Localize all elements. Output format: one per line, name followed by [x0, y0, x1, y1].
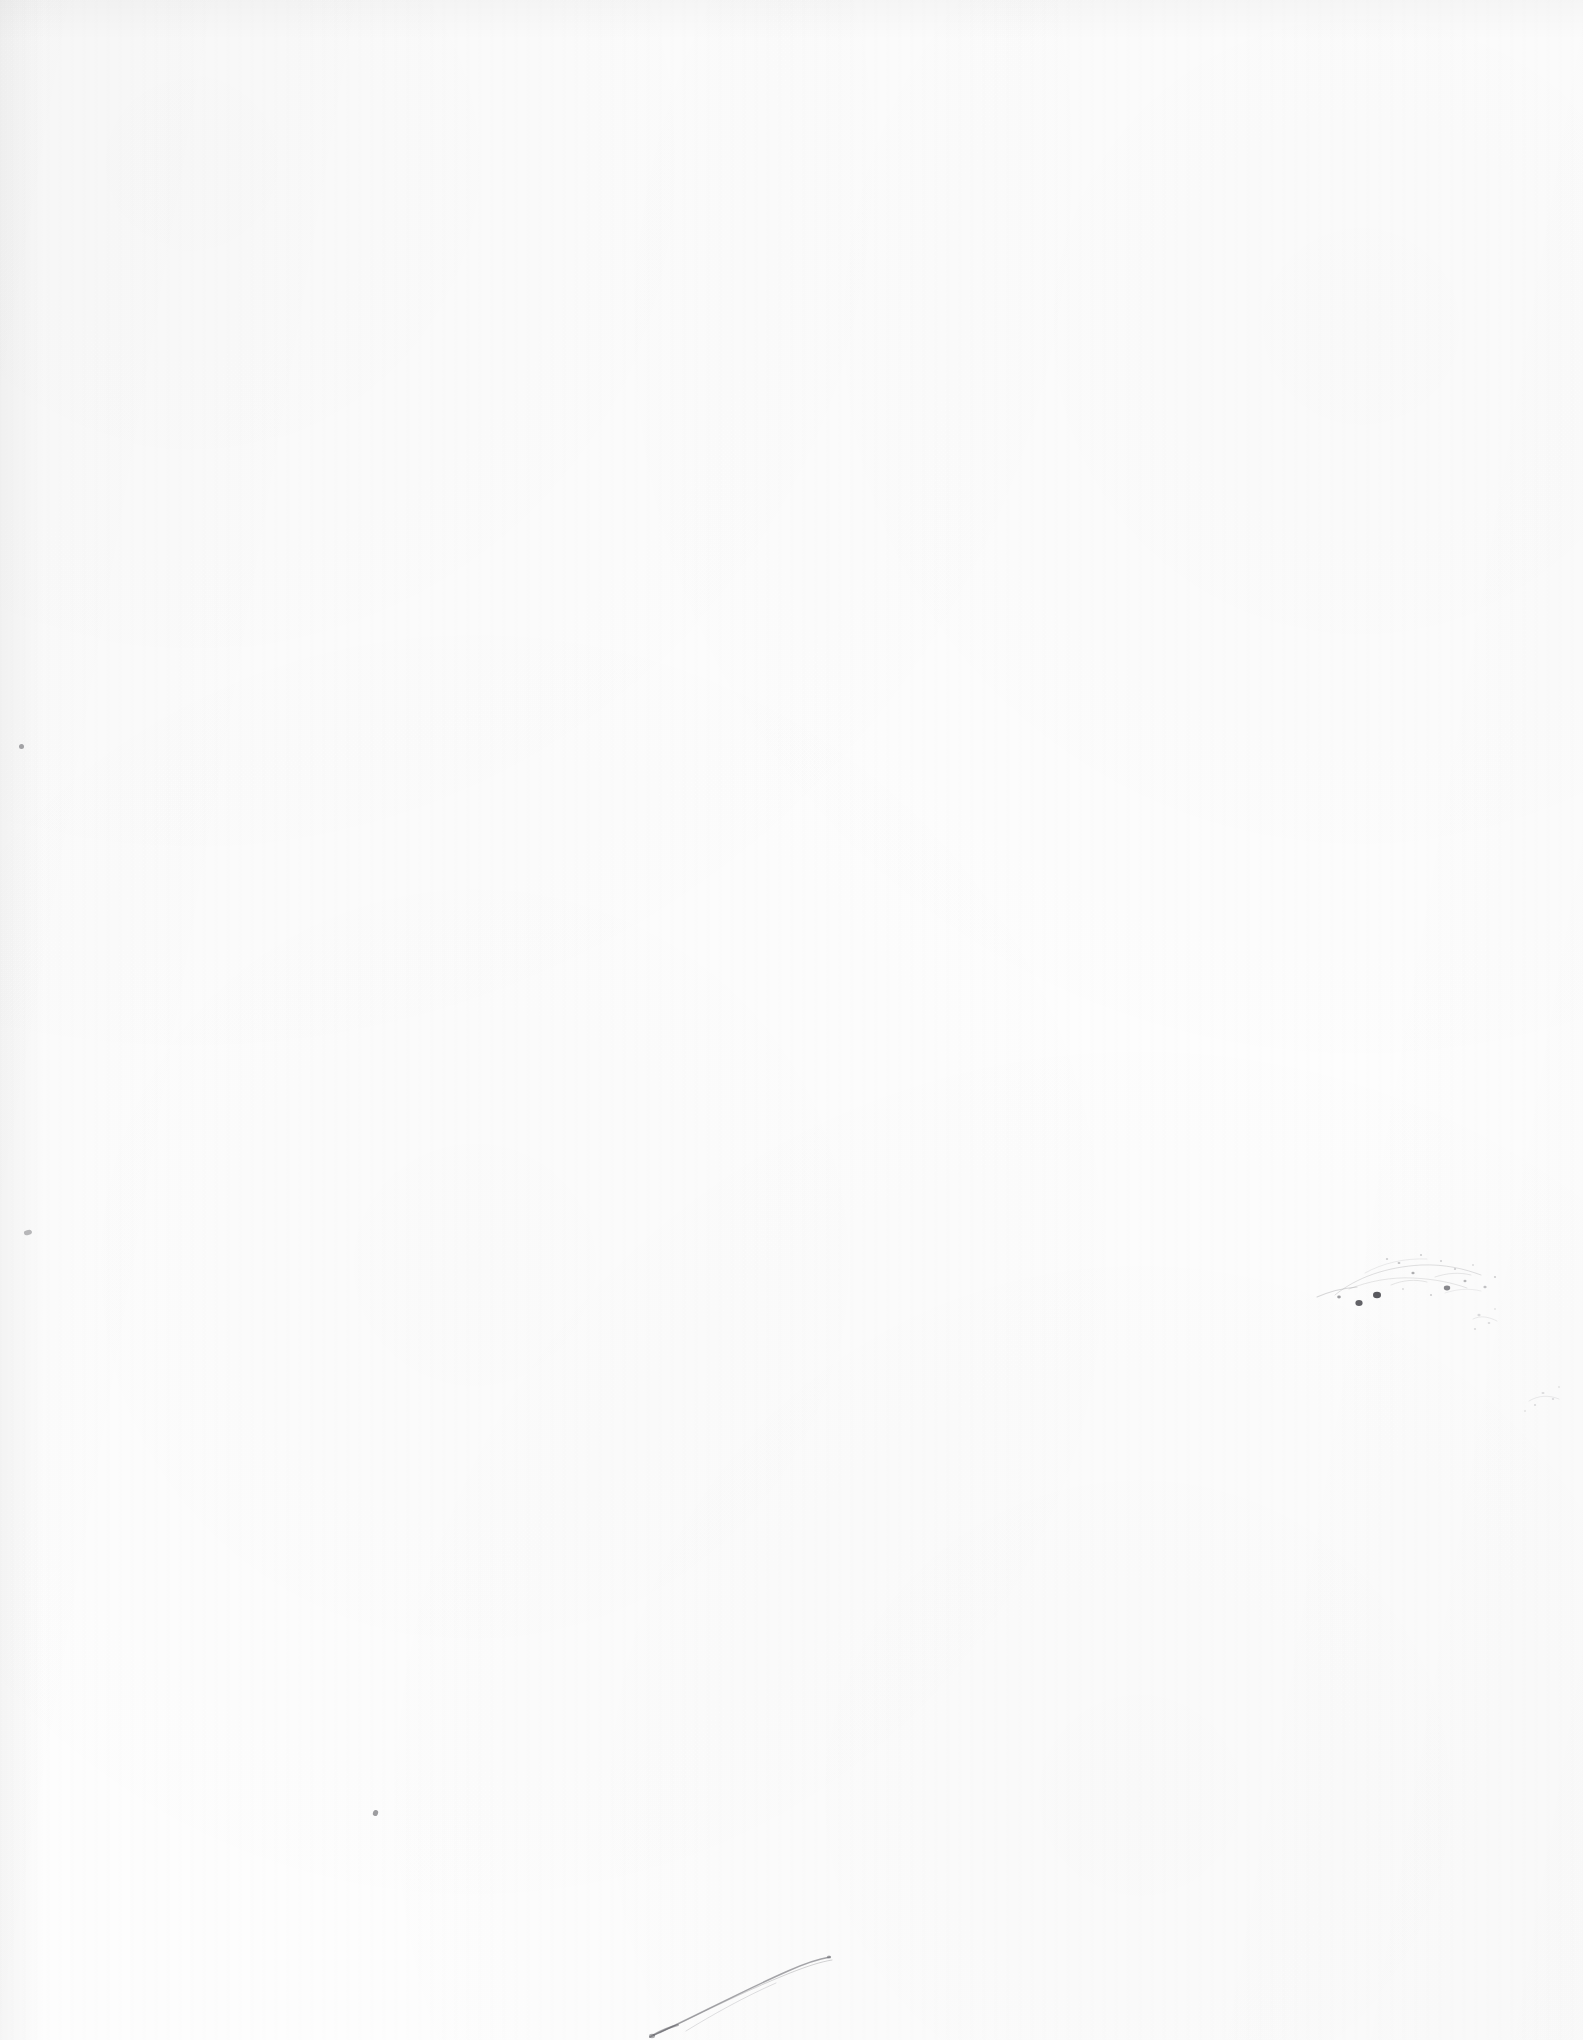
left-edge-shadow	[0, 0, 46, 2040]
corner-flecks-artifact	[1465, 1295, 1583, 1425]
scanned-page	[0, 0, 1583, 2040]
page-content-area	[150, 150, 1433, 1890]
edge-speck-left-upper-icon	[19, 744, 24, 749]
edge-speck-left-lower-icon	[23, 1229, 32, 1236]
top-edge-shadow	[0, 0, 1583, 40]
curved-scratch-artifact	[620, 1935, 850, 2040]
